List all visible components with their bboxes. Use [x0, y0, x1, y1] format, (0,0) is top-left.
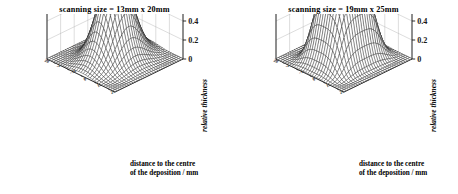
x-axis-label-left-line2: of the deposition / mm — [130, 169, 198, 178]
surface-plot-svg-right: 00.20.40.60.81-20-1001020-20-1001020 — [229, 14, 458, 184]
panel-title-right: scanning size = 19mm x 25mm — [229, 5, 458, 14]
x-axis-label-right: distance to the centre of the deposition… — [359, 160, 427, 178]
svg-text:0: 0 — [417, 55, 421, 64]
x-axis-label-left-line1: distance to the centre — [130, 160, 198, 169]
surface-plot-svg-left: 00.20.40.60.81-20-1001020-20-1001020 — [0, 14, 229, 184]
figure-container: scanning size = 13mm x 20mm 00.20.40.60.… — [0, 0, 458, 194]
x-axis-label-right-line1: distance to the centre — [359, 160, 427, 169]
svg-text:0.2: 0.2 — [417, 36, 427, 45]
svg-text:0.4: 0.4 — [188, 17, 198, 26]
svg-text:0: 0 — [83, 76, 88, 82]
panel-title-left: scanning size = 13mm x 20mm — [0, 5, 229, 14]
svg-text:0.4: 0.4 — [417, 17, 427, 26]
z-axis-label-right: relative thickness — [429, 79, 438, 132]
surface-plot-panel-left: scanning size = 13mm x 20mm 00.20.40.60.… — [0, 0, 229, 194]
surface-plot-panel-right: scanning size = 19mm x 25mm 00.20.40.60.… — [229, 0, 458, 194]
x-axis-label-right-line2: of the deposition / mm — [359, 169, 427, 178]
svg-text:0: 0 — [188, 55, 192, 64]
svg-text:0.2: 0.2 — [188, 36, 198, 45]
x-axis-label-left: distance to the centre of the deposition… — [130, 160, 198, 178]
z-axis-label-left: relative thickness — [200, 79, 209, 132]
